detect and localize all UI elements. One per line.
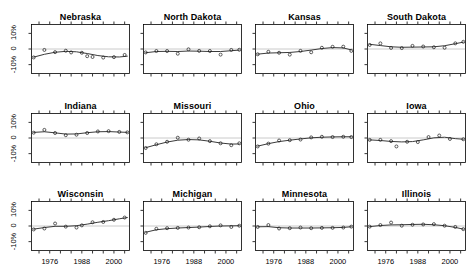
panel-plot-area (31, 24, 130, 74)
panel-plot-area (31, 113, 130, 163)
panel-title: Wisconsin (31, 189, 130, 199)
panel-title: Michigan (143, 189, 242, 199)
x-axis-tick-label: 1976 (34, 257, 66, 266)
panel-kansas: Kansas (255, 24, 354, 74)
panel-title: Illinois (367, 189, 466, 199)
x-axis-tick-label: 1976 (370, 257, 402, 266)
panel-plot-area (255, 201, 354, 251)
x-axis-tick-label: 1976 (146, 257, 178, 266)
panel-north-dakota: North Dakota (143, 24, 242, 74)
panel-title: Minnesota (255, 189, 354, 199)
panel-plot-area (31, 201, 130, 251)
panel-title: Nebraska (31, 12, 130, 22)
panel-plot-area (255, 24, 354, 74)
x-axis-tick-label: 1988 (290, 257, 322, 266)
x-axis-tick-label: 2000 (98, 257, 130, 266)
panel-title: Ohio (255, 101, 354, 111)
y-axis-tick-label: -10% (9, 228, 18, 254)
panel-plot-area (367, 113, 466, 163)
panel-iowa: Iowa (367, 113, 466, 163)
panel-title: Missouri (143, 101, 242, 111)
panel-plot-area (367, 24, 466, 74)
x-axis-tick-label: 1988 (402, 257, 434, 266)
panel-ohio: Ohio (255, 113, 354, 163)
x-axis-tick-label: 1976 (258, 257, 290, 266)
panel-title: Kansas (255, 12, 354, 22)
x-axis-tick-label: 1988 (178, 257, 210, 266)
panel-wisconsin: Wisconsin (31, 201, 130, 251)
panel-plot-area (143, 24, 242, 74)
x-axis-tick-label: 2000 (434, 257, 466, 266)
x-axis-tick-label: 2000 (210, 257, 242, 266)
panel-title: South Dakota (367, 12, 466, 22)
panel-plot-area (143, 113, 242, 163)
panel-title: North Dakota (143, 12, 242, 22)
trellis-chart: NebraskaNorth DakotaKansasSouth DakotaIn… (0, 0, 475, 278)
y-axis-tick-label: -10% (9, 51, 18, 77)
panel-illinois: Illinois (367, 201, 466, 251)
panel-michigan: Michigan (143, 201, 242, 251)
panel-nebraska: Nebraska (31, 24, 130, 74)
panel-plot-area (255, 113, 354, 163)
panel-missouri: Missouri (143, 113, 242, 163)
panel-minnesota: Minnesota (255, 201, 354, 251)
panel-plot-area (367, 201, 466, 251)
x-axis-tick-label: 2000 (322, 257, 354, 266)
y-axis-tick-label: -10% (9, 140, 18, 166)
x-axis-tick-label: 1988 (66, 257, 98, 266)
panel-south-dakota: South Dakota (367, 24, 466, 74)
panel-title: Iowa (367, 101, 466, 111)
panel-plot-area (143, 201, 242, 251)
panel-indiana: Indiana (31, 113, 130, 163)
panel-title: Indiana (31, 101, 130, 111)
